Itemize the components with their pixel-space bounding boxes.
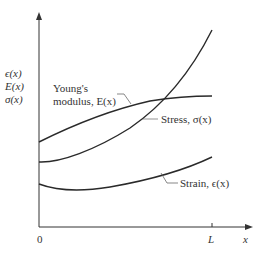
youngs-modulus-leader [117,94,131,104]
y-label-modulus: E(x) [5,80,24,93]
youngs-modulus-label-line1: Young's [53,82,88,94]
youngs-modulus-label-line2: modulus, E(x) [53,95,116,107]
x-axis-arrow-icon [245,224,253,230]
y-label-stress: σ(x) [5,93,23,106]
x-axis-label: x [243,233,248,245]
y-axis-arrow-icon [36,12,42,20]
stress-label: Stress, σ(x) [161,113,212,125]
x-origin-label: 0 [37,233,43,245]
y-label-strain: ϵ(x) [5,67,22,80]
strain-label: Strain, ϵ(x) [180,177,229,189]
x-tick-label-l: L [208,233,214,245]
diagram-canvas [0,0,255,254]
